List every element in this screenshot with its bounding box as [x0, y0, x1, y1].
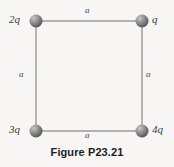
- charge-spheres: [30, 15, 149, 138]
- charge-label-bottom-left: 3q: [9, 124, 20, 135]
- figure-caption: Figure P23.21: [0, 146, 174, 158]
- side-label-bottom: a: [85, 131, 90, 140]
- charge-label-bottom-right: 4q: [152, 124, 163, 135]
- charge-sphere-top-right: [136, 15, 149, 28]
- side-label-right: a: [146, 70, 151, 79]
- charge-label-top-left: 2q: [9, 14, 20, 25]
- square-charge-diagram: [0, 0, 174, 167]
- charge-sphere-bottom-right: [136, 125, 149, 138]
- square-edges: [36, 21, 142, 131]
- figure-container: 2q q 3q 4q a a a a Figure P23.21: [0, 0, 174, 167]
- side-label-left: a: [19, 70, 24, 79]
- charge-sphere-bottom-left: [30, 125, 43, 138]
- side-label-top: a: [85, 6, 90, 15]
- charge-label-top-right: q: [152, 14, 158, 25]
- charge-sphere-top-left: [30, 15, 43, 28]
